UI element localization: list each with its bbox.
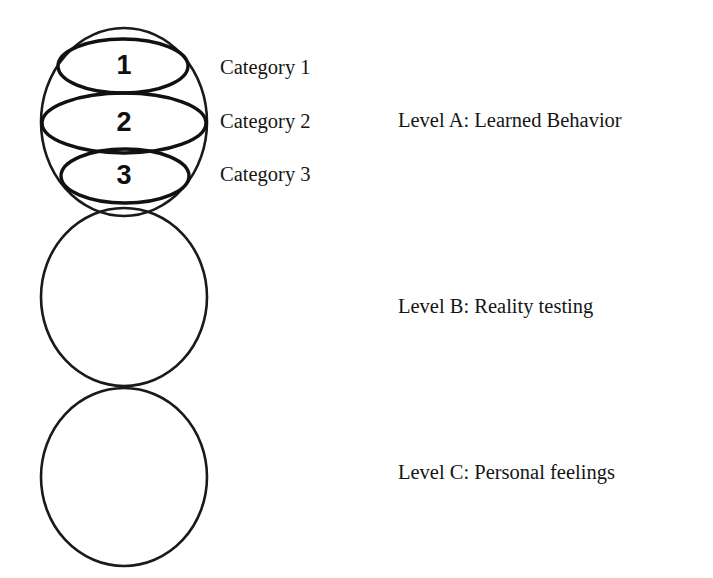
diagram-canvas: 1 2 3 Category 1 Category 2 Category 3 L… — [0, 0, 713, 578]
level-label-a: Level A: Learned Behavior — [398, 110, 622, 131]
diagram-shapes — [0, 0, 713, 578]
segment-number-1: 1 — [104, 52, 144, 79]
level-c-circle — [41, 388, 207, 566]
level-label-c: Level C: Personal feelings — [398, 462, 615, 483]
segment-number-3: 3 — [104, 162, 144, 189]
category-label-2: Category 2 — [220, 111, 311, 132]
level-label-b: Level B: Reality testing — [398, 296, 593, 317]
level-b-circle — [41, 208, 207, 386]
segment-number-2: 2 — [104, 109, 144, 136]
category-label-1: Category 1 — [220, 57, 311, 78]
category-label-3: Category 3 — [220, 164, 311, 185]
